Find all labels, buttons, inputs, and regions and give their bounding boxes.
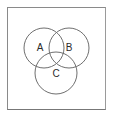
venn-circle-a bbox=[24, 28, 64, 68]
venn-label-a: A bbox=[37, 42, 44, 53]
venn-diagram-figure: A B C bbox=[0, 0, 114, 119]
venn-label-b: B bbox=[66, 42, 73, 53]
venn-diagram-canvas: A B C bbox=[0, 0, 114, 119]
venn-label-c: C bbox=[52, 68, 59, 79]
